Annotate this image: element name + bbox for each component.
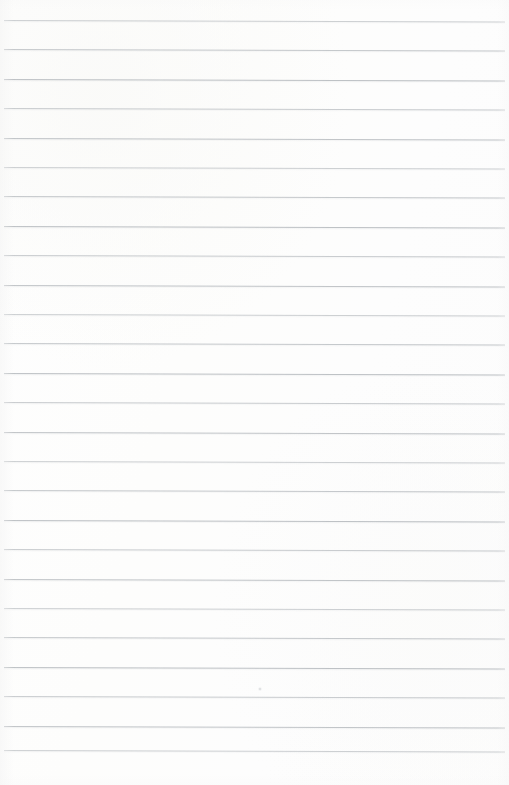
rule-line xyxy=(4,226,505,228)
rule-line xyxy=(4,402,505,404)
rule-line xyxy=(4,608,505,610)
rule-line xyxy=(4,108,505,110)
ruled-lines-group xyxy=(0,0,509,785)
rule-line xyxy=(4,726,505,728)
rule-line xyxy=(4,20,505,22)
rule-line xyxy=(4,255,505,257)
rule-line xyxy=(4,196,505,198)
rule-line xyxy=(4,373,505,375)
rule-line xyxy=(4,696,505,698)
rule-line xyxy=(4,750,505,752)
rule-line xyxy=(4,285,505,287)
rule-line xyxy=(4,490,505,492)
rule-line xyxy=(4,79,505,81)
rule-line xyxy=(4,520,505,522)
rule-line xyxy=(4,461,505,463)
rule-line xyxy=(4,49,505,51)
rule-line xyxy=(4,138,505,140)
rule-line xyxy=(4,343,505,345)
scanned-paper-page xyxy=(0,0,509,785)
rule-line xyxy=(4,167,505,169)
rule-line xyxy=(4,432,505,434)
rule-line xyxy=(4,314,505,316)
rule-line xyxy=(4,667,505,669)
rule-line xyxy=(4,579,505,581)
rule-line xyxy=(4,637,505,639)
rule-line xyxy=(4,549,505,551)
